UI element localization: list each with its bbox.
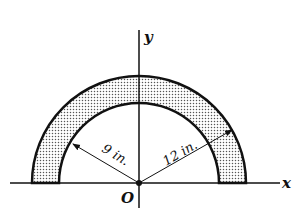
ring-diagram: 9 in. 12 in. y x O <box>0 0 294 224</box>
y-axis-label: y <box>143 28 154 46</box>
x-axis-label: x <box>281 174 292 192</box>
origin-label: O <box>121 189 134 207</box>
inner-radius-label: 9 in. <box>99 141 132 169</box>
outer-radius-label: 12 in. <box>160 137 200 169</box>
